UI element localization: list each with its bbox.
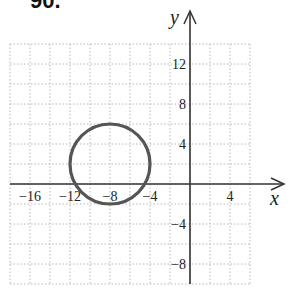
grid-lines — [10, 44, 250, 284]
y-tick-label: 8 — [179, 97, 186, 112]
x-tick-label: −8 — [103, 189, 118, 204]
coordinate-plane: xy −16−12−8−441284−4−8 — [0, 0, 294, 301]
x-tick-label: −12 — [59, 189, 81, 204]
y-tick-label: 4 — [179, 137, 186, 152]
y-axis-label: y — [168, 6, 179, 29]
x-tick-label: −4 — [143, 189, 158, 204]
x-axis-label: x — [269, 187, 279, 209]
y-tick-label: −8 — [171, 257, 186, 272]
x-tick-label: 4 — [227, 189, 234, 204]
x-tick-label: −16 — [19, 189, 41, 204]
y-tick-label: 12 — [172, 57, 186, 72]
y-tick-label: −4 — [171, 217, 186, 232]
